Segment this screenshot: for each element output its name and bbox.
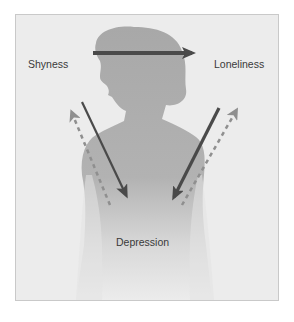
- label-shyness: Shyness: [28, 58, 68, 70]
- label-depression: Depression: [116, 236, 169, 248]
- diagram-panel: Shyness Loneliness Depression: [15, 14, 279, 301]
- label-loneliness: Loneliness: [214, 58, 264, 70]
